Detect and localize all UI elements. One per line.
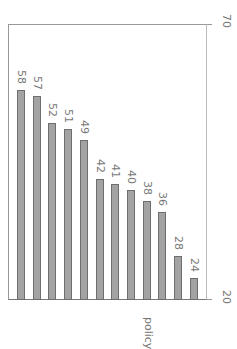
bar bbox=[158, 212, 166, 300]
bar-value-label: 51 bbox=[63, 109, 74, 123]
max-tick bbox=[207, 24, 212, 25]
bar-value-label: 58 bbox=[16, 70, 27, 84]
bar bbox=[96, 179, 104, 300]
bar-value-label: 52 bbox=[47, 103, 58, 117]
bar-value-label: 42 bbox=[95, 159, 106, 173]
bar bbox=[174, 256, 182, 300]
bar-value-label: 57 bbox=[32, 76, 43, 90]
bar bbox=[127, 190, 135, 300]
min-tick bbox=[207, 299, 212, 300]
category-axis-label: policy bbox=[143, 317, 154, 349]
bar-value-label: 38 bbox=[142, 181, 153, 195]
bar bbox=[17, 90, 25, 300]
axis-max-label: 70 bbox=[221, 14, 232, 28]
bar bbox=[143, 201, 151, 300]
bar-value-label: 49 bbox=[79, 120, 90, 134]
bar-value-label: 24 bbox=[189, 258, 200, 272]
bar-value-label: 41 bbox=[110, 164, 121, 178]
bar bbox=[80, 140, 88, 300]
bar-value-label: 40 bbox=[126, 170, 137, 184]
bar-value-label: 28 bbox=[173, 236, 184, 250]
bar-value-label: 36 bbox=[157, 192, 168, 206]
bar bbox=[111, 184, 119, 300]
bar bbox=[190, 278, 198, 300]
axis-min-label: 20 bbox=[221, 290, 232, 304]
bar bbox=[48, 123, 56, 300]
bar bbox=[33, 96, 41, 300]
bar bbox=[64, 129, 72, 300]
